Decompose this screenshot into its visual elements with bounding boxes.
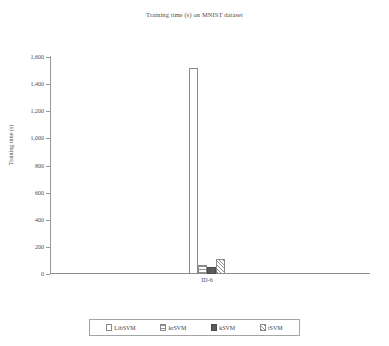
bar-tsvm [216, 259, 225, 274]
y-tick-mark [46, 111, 50, 112]
y-tick-label: 400 [35, 217, 44, 223]
legend-label: LibSVM [114, 325, 135, 331]
legend-label: tSVM [268, 325, 283, 331]
bar-cluster [189, 68, 225, 274]
y-tick-label: 600 [35, 190, 44, 196]
y-tick-mark [46, 247, 50, 248]
y-tick-mark [46, 220, 50, 221]
plot-area: 02004006008001,0001,2001,4001,600 [50, 57, 370, 274]
y-tick-mark [46, 84, 50, 85]
legend-item-tsvm: tSVM [260, 324, 283, 331]
y-tick-label: 0 [41, 271, 44, 277]
legend-item-libsvm: LibSVM [106, 324, 135, 331]
x-category-label: ID-6 [201, 277, 212, 283]
y-tick-label: 1,400 [31, 81, 45, 87]
bar-krsvm [198, 265, 207, 274]
chart-container: Training time (s) on MNIST dataset Train… [0, 0, 389, 346]
legend-swatch-icon [106, 324, 112, 331]
y-tick-mark [46, 138, 50, 139]
y-tick-label: 1,600 [31, 54, 45, 60]
y-tick-label: 200 [35, 244, 44, 250]
legend-item-ksvm: kSVM [211, 324, 235, 331]
chart-title: Training time (s) on MNIST dataset [0, 11, 389, 18]
y-tick-mark [46, 274, 50, 275]
legend-label: krSVM [168, 325, 186, 331]
bar-ksvm [207, 267, 216, 274]
legend-label: kSVM [219, 325, 235, 331]
y-tick-label: 1,200 [31, 108, 45, 114]
y-axis-title: Training time (s) [8, 125, 14, 165]
legend-swatch-icon [160, 324, 166, 331]
bar-libsvm [189, 68, 198, 274]
y-tick-label: 800 [35, 163, 44, 169]
y-tick-mark [46, 57, 50, 58]
y-tick-label: 1,000 [31, 135, 45, 141]
legend-swatch-icon [260, 324, 266, 331]
legend-swatch-icon [211, 324, 217, 331]
y-tick-mark [46, 193, 50, 194]
chart-legend: LibSVM krSVM kSVM tSVM [89, 319, 300, 336]
y-tick-mark [46, 166, 50, 167]
legend-item-krsvm: krSVM [160, 324, 186, 331]
